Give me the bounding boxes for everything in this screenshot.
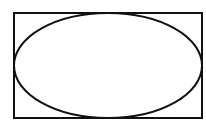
inscribed-ellipse	[14, 13, 202, 118]
diagram-canvas	[0, 0, 206, 130]
